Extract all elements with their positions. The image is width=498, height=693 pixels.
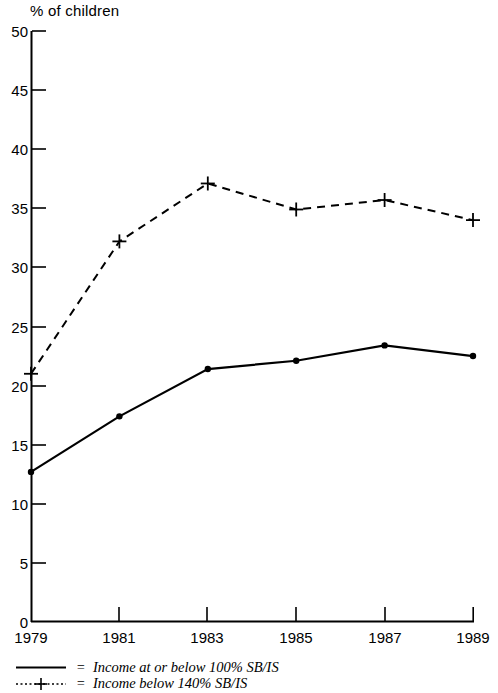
x-tick-label-1979: 1979 <box>1 630 61 645</box>
x-tick-label-1989: 1989 <box>443 630 498 645</box>
legend-equals-sign-1: = <box>76 675 85 692</box>
chart-figure: % of children 50 45 40 35 30 25 20 15 10… <box>0 0 498 693</box>
legend-swatch-dotted-plus <box>14 675 70 692</box>
series-markers-dot <box>28 342 476 475</box>
x-tick-label-1983: 1983 <box>177 630 237 645</box>
legend-label-1: Income below 140% SB/IS <box>93 675 247 692</box>
y-axis-ticks <box>32 31 46 563</box>
series-income-at-or-below-100 <box>28 342 476 475</box>
legend-item-income-at-or-below-100: = Income at or below 100% SB/IS <box>0 659 498 676</box>
x-tick-label-1985: 1985 <box>266 630 326 645</box>
legend-label-0: Income at or below 100% SB/IS <box>93 659 279 676</box>
legend-swatch-solid-line <box>14 659 70 676</box>
chart-legend: = Income at or below 100% SB/IS = Income… <box>0 659 498 693</box>
legend-item-income-below-140: = Income below 140% SB/IS <box>0 675 498 692</box>
legend-equals-sign-0: = <box>76 659 85 676</box>
series-markers-plus <box>24 176 480 380</box>
x-tick-label-1981: 1981 <box>89 630 149 645</box>
series-income-below-140 <box>24 176 480 380</box>
x-axis-ticks <box>119 607 473 621</box>
plot-area <box>0 0 498 693</box>
x-tick-label-1987: 1987 <box>355 630 415 645</box>
